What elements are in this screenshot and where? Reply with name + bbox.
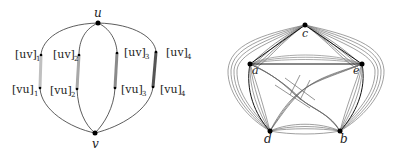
svg-text:2: 2: [71, 91, 75, 99]
label-uv2: [uv]: [53, 48, 75, 61]
label-vu2: [vu]: [50, 84, 72, 97]
svg-text:4: 4: [187, 53, 192, 61]
left-graph: u v [uv] 1 [uv] 2 [uv] 3 [uv] 4 [vu] 1 […: [12, 6, 192, 151]
figure-canvas: u v [uv] 1 [uv] 2 [uv] 3 [uv] 4 [vu] 1 […: [0, 0, 399, 153]
label-uv3: [uv]: [124, 46, 146, 59]
label-d: d: [264, 132, 272, 146]
vertex-v: [93, 131, 98, 136]
svg-text:4: 4: [181, 90, 186, 98]
label-c: c: [302, 27, 308, 40]
label-u: u: [94, 6, 102, 20]
svg-text:1: 1: [34, 90, 38, 98]
svg-text:1: 1: [36, 55, 40, 63]
label-vu4: [vu]: [160, 83, 182, 96]
svg-text:3: 3: [145, 53, 149, 61]
svg-text:2: 2: [74, 55, 78, 63]
label-vu1: [vu]: [12, 83, 34, 96]
svg-text:3: 3: [142, 90, 146, 98]
label-b: b: [340, 132, 348, 146]
label-e: e: [353, 64, 360, 77]
label-v: v: [92, 137, 99, 151]
label-vu3: [vu]: [121, 83, 143, 96]
vertex-e: [360, 62, 365, 67]
label-uv1: [uv]: [15, 48, 37, 61]
label-a: a: [252, 64, 259, 77]
vertex-u: [96, 21, 101, 26]
label-uv4: [uv]: [166, 46, 188, 59]
